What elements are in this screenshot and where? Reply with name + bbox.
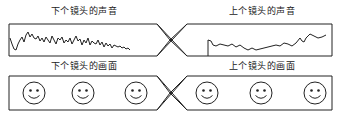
next-shot-audio-box [9,24,170,56]
transition-diagram [0,0,339,118]
smiley-face-icon [23,82,45,104]
previous-shot-picture-box [170,76,332,110]
audio-waveform-icon [10,32,130,50]
previous-shot-audio-box [170,24,332,56]
smiley-face-icon [304,82,326,104]
smiley-face-icon [72,82,94,104]
next-shot-picture-box [9,76,170,110]
smiley-face-icon [250,82,272,104]
smiley-face-icon [125,82,147,104]
audio-waveform-icon [208,34,326,56]
smiley-face-icon [196,82,218,104]
